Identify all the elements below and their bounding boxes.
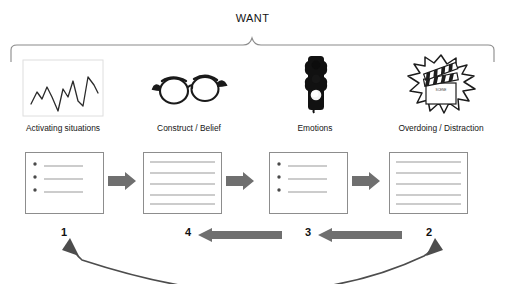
icon-caption-activating-situations: Activating situations	[0, 123, 126, 133]
traffic-light-icon	[252, 50, 378, 117]
flow-box-emotions	[269, 152, 348, 214]
bulleted-list-graphic	[26, 153, 103, 213]
eyeglasses-icon	[126, 55, 252, 117]
svg-text:SCENE: SCENE	[436, 88, 447, 92]
icon-column-emotions: Emotions	[252, 50, 378, 133]
flow-box-construct-belief	[143, 152, 222, 214]
flow-box-activating-situations	[25, 152, 104, 214]
forward-arrow-1	[108, 171, 138, 191]
icon-column-construct-belief: Construct / Belief	[126, 55, 252, 133]
icon-caption-overdoing-distraction: Overdoing / Distraction	[378, 123, 504, 133]
lined-page-graphic	[144, 153, 221, 213]
diagram-canvas: WANT Activating situations	[0, 0, 505, 284]
forward-arrow-2	[226, 171, 256, 191]
lined-page-graphic	[390, 153, 467, 213]
icon-column-activating-situations: Activating situations	[0, 55, 126, 133]
icon-caption-construct-belief: Construct / Belief	[126, 123, 252, 133]
zigzag-chart-icon	[0, 55, 126, 117]
want-title: WANT	[0, 12, 505, 24]
bulleted-list-graphic	[270, 153, 347, 213]
clapperboard-burst-icon: SCENE	[378, 52, 504, 117]
icon-caption-emotions: Emotions	[252, 123, 378, 133]
icon-column-overdoing-distraction: SCENE Overdoing / Distraction	[378, 52, 504, 133]
curved-double-arrow	[0, 230, 505, 284]
flow-box-overdoing-distraction	[389, 152, 468, 214]
forward-arrow-3	[352, 171, 382, 191]
